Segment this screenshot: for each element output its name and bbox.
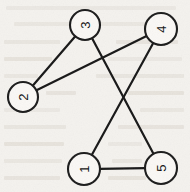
- node-label: 5: [154, 164, 169, 171]
- graph-node-5: 5: [145, 152, 177, 184]
- graph-edge: [32, 36, 75, 86]
- node-label: 4: [154, 25, 169, 32]
- graph-canvas: 23415: [0, 0, 190, 192]
- graph-edge: [99, 168, 145, 169]
- nodes-group: 23415: [8, 10, 177, 185]
- edges-group: [32, 36, 153, 169]
- graph-node-3: 3: [70, 10, 100, 40]
- node-label: 2: [16, 93, 31, 100]
- graph-node-4: 4: [145, 13, 177, 45]
- graph-node-2: 2: [8, 82, 38, 112]
- node-label: 3: [78, 21, 93, 28]
- node-label: 1: [77, 165, 92, 172]
- graph-node-1: 1: [68, 153, 100, 185]
- graph-figure: 23415: [0, 0, 190, 192]
